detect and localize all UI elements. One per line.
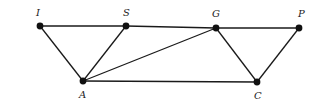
edge-i-a bbox=[40, 26, 83, 81]
node-s bbox=[123, 23, 130, 30]
labels-group: ISGPAC bbox=[35, 7, 305, 101]
edge-p-c bbox=[257, 28, 299, 82]
node-a bbox=[80, 78, 87, 85]
node-label-i: I bbox=[35, 7, 41, 18]
node-label-c: C bbox=[254, 90, 262, 101]
node-label-s: S bbox=[123, 7, 130, 18]
edge-s-g bbox=[126, 26, 216, 28]
node-label-g: G bbox=[212, 8, 220, 19]
edge-a-c bbox=[83, 81, 257, 82]
nodes-group bbox=[37, 23, 303, 86]
graph-diagram: ISGPAC bbox=[0, 0, 325, 108]
node-i bbox=[37, 23, 44, 30]
node-label-a: A bbox=[78, 89, 86, 100]
node-p bbox=[296, 25, 303, 32]
node-c bbox=[254, 79, 261, 86]
node-label-p: P bbox=[297, 8, 305, 19]
node-g bbox=[213, 25, 220, 32]
edge-g-c bbox=[216, 28, 257, 82]
edges-group bbox=[40, 26, 299, 82]
